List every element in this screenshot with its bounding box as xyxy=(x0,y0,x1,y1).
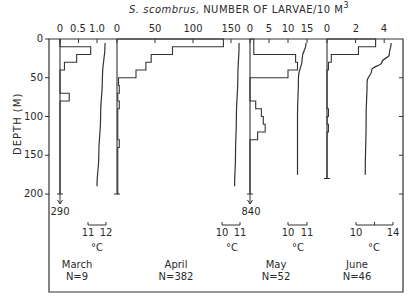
chart-title: S. scombrus, NUMBER OF LARVAE/10 M3 xyxy=(129,5,349,16)
april-x-tick-150: 150 xyxy=(221,24,240,34)
may-x-tick-5: 5 xyxy=(266,24,272,34)
march-n: N=9 xyxy=(62,271,92,283)
may-temperature-profile xyxy=(298,43,307,175)
may-x-tick-15: 15 xyxy=(301,24,314,34)
june-n: N=46 xyxy=(343,271,372,283)
march-x-tick-0: 0 xyxy=(57,24,63,34)
june-label: June N=46 xyxy=(343,259,372,283)
april-month: April xyxy=(159,259,194,271)
title-text: , NUMBER OF LARVAE/10 M xyxy=(196,4,344,15)
may-label: May N=52 xyxy=(262,259,291,283)
march-temperature-profile xyxy=(97,43,105,186)
y-tick-100: 100 xyxy=(15,112,43,122)
march-x-tick-0-5: 0.5 xyxy=(70,24,86,34)
may-larvae-histogram xyxy=(250,39,298,194)
april-n: N=382 xyxy=(159,271,194,283)
y-axis-label: DEPTH (M) xyxy=(13,93,23,155)
april-label: April N=382 xyxy=(159,259,194,283)
y-tick-0: 0 xyxy=(15,34,43,44)
y-tick-50: 50 xyxy=(15,73,43,83)
may-month: May xyxy=(262,259,291,271)
april-temp-unit: °C xyxy=(226,243,238,253)
march-larvae-histogram xyxy=(60,39,91,194)
april-larvae-histogram xyxy=(117,39,223,194)
title-species: S. scombrus xyxy=(129,4,196,15)
march-off-scale-value: 290 xyxy=(50,207,69,217)
may-temperature-scale-bar xyxy=(288,222,307,225)
may-temp-tick-10: 10 xyxy=(282,228,295,238)
march-off-scale-arrow xyxy=(58,194,63,204)
june-x-tick-4: 4 xyxy=(381,24,387,34)
march-temp-unit: °C xyxy=(91,243,103,253)
march-month: March xyxy=(62,259,92,271)
may-temp-unit: °C xyxy=(292,243,304,253)
april-temperature-profile xyxy=(235,43,240,186)
april-temp-tick-10: 10 xyxy=(216,228,229,238)
may-x-tick-0: 0 xyxy=(247,24,253,34)
march-temp-tick-12: 12 xyxy=(100,228,113,238)
june-temp-tick-10: 10 xyxy=(350,228,363,238)
march-temperature-scale-bar xyxy=(88,222,106,225)
depth-profile-chart: S. scombrus, NUMBER OF LARVAE/10 M3 DEPT… xyxy=(0,0,416,306)
may-temp-tick-11: 11 xyxy=(301,228,314,238)
april-temperature-scale-bar xyxy=(222,222,240,225)
may-off-scale-arrow xyxy=(248,194,253,204)
y-tick-200: 200 xyxy=(15,189,43,199)
march-x-tick-1-0: 1.0 xyxy=(89,24,105,34)
may-n: N=52 xyxy=(262,271,291,283)
march-temp-tick-11: 11 xyxy=(82,228,95,238)
march-label: March N=9 xyxy=(62,259,92,283)
june-month: June xyxy=(343,259,372,271)
may-off-scale-value: 840 xyxy=(241,207,260,217)
april-x-tick-50: 50 xyxy=(149,24,162,34)
june-temperature-profile xyxy=(365,43,391,175)
june-larvae-histogram xyxy=(327,39,376,179)
april-temp-tick-11: 11 xyxy=(234,228,247,238)
june-x-tick-0: 0 xyxy=(324,24,330,34)
june-x-tick-2: 2 xyxy=(353,24,359,34)
may-x-tick-10: 10 xyxy=(282,24,295,34)
april-x-tick-0: 0 xyxy=(114,24,120,34)
y-tick-150: 150 xyxy=(15,150,43,160)
june-temp-unit: °C xyxy=(368,243,380,253)
title-superscript: 3 xyxy=(343,1,349,10)
april-x-tick-100: 100 xyxy=(183,24,202,34)
june-temp-tick-14: 14 xyxy=(387,228,400,238)
